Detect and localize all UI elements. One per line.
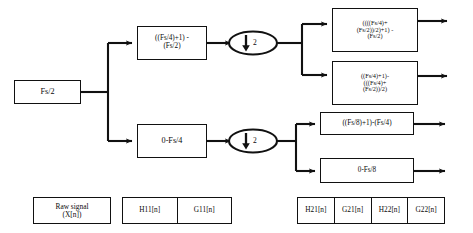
- diagram-canvas: 2 2 Fs/2 ((Fs/4)+1) - (Fs/2) 0-Fs/4 ((((…: [0, 0, 473, 233]
- decimator-top-factor: 2: [253, 38, 257, 47]
- legend-level1-strip: H11[n] G11[n]: [122, 197, 232, 224]
- decimator-bottom-factor: 2: [253, 136, 257, 145]
- legend-cell: G11[n]: [178, 198, 232, 223]
- legend-cell: H22[n]: [372, 198, 409, 223]
- legend-cell: H21[n]: [298, 198, 335, 223]
- legend-level2-strip: H21[n] G21[n] H22[n] G22[n]: [297, 197, 445, 224]
- filter-block-level2-band-b: ((Fs/4)+1)- (((Fs/4)+ (Fs/2))/2): [332, 61, 418, 105]
- legend-raw-signal: Raw signal (X[n]): [33, 197, 111, 224]
- filter-block-level2-band-a: ((((Fs/4)+ (Fs/2))/2)+1) - (Fs/2): [332, 8, 418, 52]
- input-block-fs-half: Fs/2: [14, 80, 81, 104]
- legend-cell: G21[n]: [335, 198, 372, 223]
- filter-block-level1-highband: ((Fs/4)+1) - (Fs/2): [137, 26, 207, 60]
- legend-cell: G22[n]: [408, 198, 444, 223]
- filter-block-level2-band-d: 0-Fs/8: [320, 158, 414, 183]
- filter-block-level2-band-c: ((Fs/8)+1)-(Fs/4): [320, 112, 414, 135]
- filter-block-level1-lowband: 0-Fs/4: [137, 124, 207, 158]
- legend-cell: H11[n]: [123, 198, 178, 223]
